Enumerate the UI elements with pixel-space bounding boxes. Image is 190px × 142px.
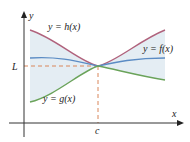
- x-axis-arrow-icon: [177, 120, 184, 126]
- c-label: c: [95, 125, 100, 136]
- g-curve-label: y = g(x): [42, 93, 76, 105]
- y-axis-arrow-icon: [21, 11, 27, 18]
- squeeze-theorem-diagram: y x L c y = h(x) y = f(x) y = g(x): [0, 0, 190, 142]
- f-curve-label: y = f(x): [142, 43, 174, 55]
- L-label: L: [11, 61, 18, 72]
- x-axis-label: x: [171, 108, 177, 119]
- h-curve-label: y = h(x): [47, 21, 81, 33]
- y-axis-label: y: [28, 10, 34, 21]
